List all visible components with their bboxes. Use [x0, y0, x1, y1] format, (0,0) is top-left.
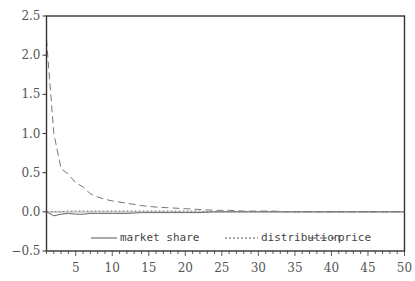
- y-tick-label: 2.5: [21, 9, 40, 23]
- y-tick-label: 0.5: [21, 166, 40, 180]
- legend: market sharedistributionprice: [91, 231, 371, 244]
- x-tick-label: 30: [251, 261, 266, 275]
- legend-label: distribution: [261, 231, 340, 244]
- plot-frame: [47, 16, 405, 251]
- series-price: [47, 40, 405, 212]
- y-tick-label: 1.5: [21, 87, 40, 101]
- x-tick-label: 40: [324, 261, 339, 275]
- y-tick-label: −0.5: [11, 244, 40, 258]
- legend-label: price: [338, 231, 371, 244]
- x-tick-label: 10: [105, 261, 120, 275]
- y-tick-label: 1.0: [21, 127, 40, 141]
- x-tick-label: 45: [360, 261, 375, 275]
- x-tick-label: 15: [141, 261, 156, 275]
- y-axis: −0.50.00.51.01.52.02.5: [11, 9, 46, 258]
- x-tick-label: 5: [72, 261, 80, 275]
- x-tick-label: 25: [214, 261, 229, 275]
- series-lines: [47, 40, 405, 216]
- x-axis: 5101520253035404550: [47, 251, 413, 275]
- y-tick-label: 2.0: [21, 48, 40, 62]
- x-tick-label: 20: [178, 261, 193, 275]
- x-tick-label: 50: [397, 261, 412, 275]
- impulse-response-chart: −0.50.00.51.01.52.02.5 51015202530354045…: [0, 0, 415, 281]
- y-tick-label: 0.0: [21, 205, 40, 219]
- legend-label: market share: [120, 231, 199, 244]
- x-tick-label: 35: [287, 261, 302, 275]
- series-market-share: [47, 212, 405, 216]
